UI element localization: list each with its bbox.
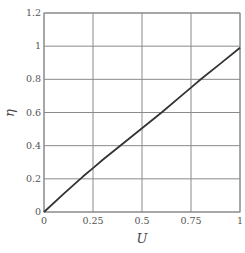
y-tick-label: 0.8: [26, 73, 41, 84]
y-tick-label: 0.2: [26, 173, 41, 184]
y-tick-label: 0: [35, 206, 41, 217]
y-tick-label: 0.4: [26, 140, 41, 151]
x-tick-label: 0.5: [134, 215, 149, 226]
y-tick-label: 1.2: [26, 7, 41, 18]
line-chart: 00.250.50.751 00.20.40.60.811.2 U η: [0, 0, 245, 253]
x-tick-label: 0: [41, 215, 47, 226]
x-tick-label: 1: [237, 215, 243, 226]
y-tick-label: 1: [35, 40, 41, 51]
y-axis-label: η: [2, 109, 17, 117]
y-axis-ticks: 00.20.40.60.811.2: [26, 7, 41, 217]
x-axis-label: U: [137, 231, 149, 246]
x-axis-ticks: 00.250.50.751: [41, 215, 243, 226]
x-tick-label: 0.75: [180, 215, 201, 226]
x-tick-label: 0.25: [82, 215, 103, 226]
y-tick-label: 0.6: [26, 107, 41, 118]
grid-lines: [44, 13, 240, 212]
